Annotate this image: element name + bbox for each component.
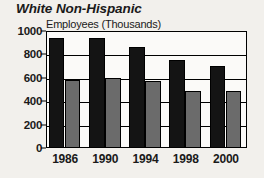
bar-series-b-2000 [226, 91, 242, 148]
bar-series-a-2000 [210, 66, 226, 148]
y-tick-label: 200 [24, 119, 42, 131]
x-tick-label: 1990 [92, 152, 118, 166]
chart-title: White Non-Hispanic [16, 1, 142, 16]
x-tick-label: 2000 [213, 152, 239, 166]
chart-figure: White Non-Hispanic Employees (Thousands)… [0, 0, 264, 178]
x-tick-label: 1994 [133, 152, 159, 166]
y-tick-label: 400 [24, 95, 42, 107]
y-tick-label: 600 [24, 72, 42, 84]
bar-series-a-1998 [169, 60, 185, 148]
x-tick-label: 1998 [173, 152, 199, 166]
bars-layer [46, 31, 247, 148]
bar-series-b-1998 [185, 91, 201, 148]
bar-series-a-1990 [89, 38, 105, 148]
y-tick-label: 1000 [18, 25, 42, 37]
y-axis-label: Employees (Thousands) [46, 18, 161, 30]
y-tick-label: 800 [24, 48, 42, 60]
bar-series-b-1986 [65, 80, 81, 148]
bar-series-a-1994 [129, 47, 145, 148]
x-tick-label: 1986 [52, 152, 78, 166]
bar-series-a-1986 [49, 38, 65, 148]
bar-series-b-1990 [105, 78, 121, 148]
bar-series-b-1994 [145, 81, 161, 148]
